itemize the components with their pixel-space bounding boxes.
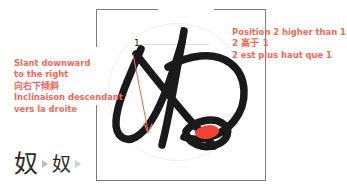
slant-annotation: Slant downward to the right 向右下倾斜 Inclin…: [14, 58, 123, 115]
stroke-number-1: 1: [134, 39, 140, 48]
slant-annotation-line-5: vers la droite: [14, 104, 123, 115]
position-annotation-line-2: 2 高于 1: [232, 38, 346, 49]
strip-character-printed: 奴: [14, 152, 38, 176]
strip-character-cursive: 奴: [52, 155, 71, 174]
strip-arrow-icon-1: [42, 160, 48, 168]
position-annotation-line-3: 2 est plus haut que 1: [232, 50, 346, 61]
glyph-progression-strip: 奴 奴: [14, 152, 81, 176]
stroke-number-2: 2: [180, 27, 186, 36]
slant-annotation-line-2: to the right: [14, 69, 123, 80]
strip-arrow-icon-2: [75, 160, 81, 168]
slant-annotation-line-1: Slant downward: [14, 58, 123, 69]
position-annotation-line-1: Position 2 higher than 1: [232, 27, 346, 38]
position-annotation: Position 2 higher than 1 2 高于 1 2 est pl…: [232, 27, 346, 61]
stroke-order-diagram: 1 2 Slant downward to the right 向右下倾斜 In…: [0, 0, 347, 191]
slant-annotation-line-4: Inclinaison descendant: [14, 92, 123, 103]
slant-annotation-line-3: 向右下倾斜: [14, 81, 123, 92]
